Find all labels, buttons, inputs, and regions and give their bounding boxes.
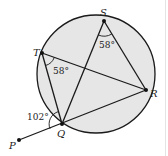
label-R: R: [149, 88, 158, 99]
point-S: [102, 19, 106, 23]
label-Q: Q: [57, 128, 65, 139]
point-R: [144, 88, 148, 92]
angle-label-Q: 102°: [27, 112, 49, 122]
angle-label-T: 58°: [53, 66, 69, 76]
page-edge-divider: [165, 0, 166, 156]
label-S: S: [100, 7, 107, 18]
point-T: [40, 51, 44, 55]
point-P: [17, 138, 21, 142]
diagram-canvas: S T R Q P 58° 58° 102°: [0, 0, 168, 156]
circle-geometry-diagram: S T R Q P 58° 58° 102°: [0, 0, 168, 156]
label-P: P: [8, 140, 16, 151]
point-Q: [60, 122, 64, 126]
angle-label-S: 58°: [99, 40, 115, 50]
